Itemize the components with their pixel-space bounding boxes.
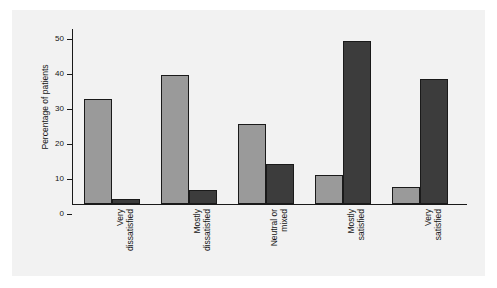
x-category-label: Very satisfied xyxy=(424,209,443,288)
y-tick-label: 50 xyxy=(55,35,64,43)
y-tick-label: 10 xyxy=(55,175,64,183)
y-tick-mark xyxy=(67,179,72,180)
bar xyxy=(189,190,217,204)
x-axis-line xyxy=(72,204,467,205)
bar xyxy=(420,79,448,204)
y-tick-mark xyxy=(67,144,72,145)
bar xyxy=(238,124,266,205)
x-category-label: Mostly satisfied xyxy=(347,209,366,288)
y-tick-label: 40 xyxy=(55,70,64,78)
y-axis-line xyxy=(72,29,73,205)
bar xyxy=(343,41,371,204)
bar xyxy=(112,199,140,204)
bar xyxy=(315,175,343,204)
y-tick-label: 30 xyxy=(55,105,64,113)
bar xyxy=(161,75,189,204)
y-tick-label: 20 xyxy=(55,140,64,148)
y-tick-mark xyxy=(67,39,72,40)
y-axis-title: Percentage of patients xyxy=(40,47,50,167)
chart-figure: Percentage of patients 01020304050 Very … xyxy=(12,10,485,276)
bar xyxy=(84,99,112,204)
bar xyxy=(392,187,420,205)
x-category-label: Very dissatisfied xyxy=(116,209,135,288)
x-category-label: Mostly dissatisfied xyxy=(193,209,212,288)
y-tick-mark xyxy=(67,109,72,110)
y-tick-label: 0 xyxy=(60,210,64,218)
bar xyxy=(266,164,294,204)
y-tick-mark xyxy=(67,214,72,215)
y-tick-mark xyxy=(67,74,72,75)
x-category-label: Neutral or mixed xyxy=(270,209,289,288)
plot-area: Percentage of patients 01020304050 Very … xyxy=(12,10,485,276)
